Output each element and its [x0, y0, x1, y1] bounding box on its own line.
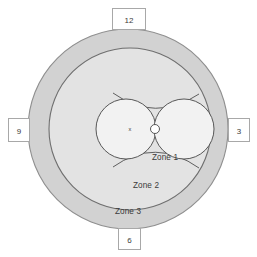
clock-label-6: 6	[127, 236, 132, 245]
zone2-label: Zone 2	[133, 181, 159, 190]
diagram-root: x Zone 1 Zone 2 Zone 3 12 3 6 9	[0, 0, 257, 257]
zone-diagram-svg: x Zone 1 Zone 2 Zone 3 12 3 6 9	[0, 0, 257, 257]
clock-label-12: 12	[125, 16, 134, 25]
clock-label-3: 3	[237, 127, 242, 136]
zone1-lobe-right	[154, 99, 214, 159]
center-node-icon	[151, 125, 160, 134]
zone1-lobe-left	[96, 99, 156, 159]
zone3-label: Zone 3	[115, 207, 141, 216]
x-marker-label: x	[129, 126, 132, 132]
clock-label-9: 9	[17, 127, 22, 136]
zone1-label: Zone 1	[152, 153, 178, 162]
